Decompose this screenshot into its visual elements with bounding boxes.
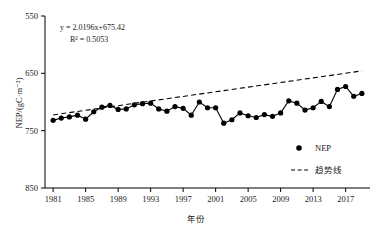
y-tick-label: 850 [25, 183, 38, 193]
data-point [262, 112, 267, 117]
data-point [270, 114, 275, 119]
data-point [91, 109, 96, 114]
regression-r-squared: R² = 0.5053 [70, 35, 108, 44]
legend-nep-label: NEP [315, 143, 331, 153]
legend-trend-label: 趋势线 [315, 165, 342, 175]
y-axis-title: NEP/(gC·m⁻²) [14, 77, 24, 128]
legend-nep-marker-icon [296, 145, 302, 151]
data-point [59, 115, 64, 120]
data-point [359, 91, 364, 96]
data-point [189, 113, 194, 118]
data-point [213, 105, 218, 110]
data-point [343, 84, 348, 89]
data-point [164, 109, 169, 114]
x-tick-label: 2009 [272, 194, 289, 204]
y-tick-label: 750 [25, 126, 38, 136]
x-tick-label: 1993 [142, 194, 159, 204]
y-tick-label: 550 [25, 11, 38, 21]
data-point [278, 110, 283, 115]
data-point [294, 101, 299, 106]
data-point [116, 107, 121, 112]
data-point [124, 106, 129, 111]
chart-figure: 850750650550 198119851989199319972001200… [0, 0, 383, 232]
x-tick-label: 2017 [337, 194, 354, 204]
chart-canvas: 850750650550 198119851989199319972001200… [0, 0, 383, 232]
data-point [51, 118, 56, 123]
data-point [237, 110, 242, 115]
data-point [254, 115, 259, 120]
x-axis-title: 年份 [187, 214, 205, 224]
x-tick-label: 1997 [175, 194, 192, 204]
x-tick-label: 1985 [77, 194, 94, 204]
data-point [246, 113, 251, 118]
regression-equation: y = 2.0196x+675.42 [60, 23, 125, 32]
data-point [221, 121, 226, 126]
x-tick-label: 2001 [207, 194, 224, 204]
data-point [302, 107, 307, 112]
x-tick-label: 2005 [240, 194, 257, 204]
data-point [67, 114, 72, 119]
data-point [327, 104, 332, 109]
data-point [197, 99, 202, 104]
data-point [205, 105, 210, 110]
data-point [286, 98, 291, 103]
data-point [319, 99, 324, 104]
x-tick-label: 1989 [110, 194, 127, 204]
data-point [83, 117, 88, 122]
data-point [156, 106, 161, 111]
x-tick-label: 1981 [45, 194, 62, 204]
data-point [229, 117, 234, 122]
data-point [351, 94, 356, 99]
data-point [335, 87, 340, 92]
data-point [311, 105, 316, 110]
data-point [172, 104, 177, 109]
data-point [75, 113, 80, 118]
x-tick-label: 2013 [305, 194, 322, 204]
data-point [107, 103, 112, 108]
y-tick-label: 650 [25, 68, 38, 78]
data-point [181, 106, 186, 111]
data-point [99, 105, 104, 110]
